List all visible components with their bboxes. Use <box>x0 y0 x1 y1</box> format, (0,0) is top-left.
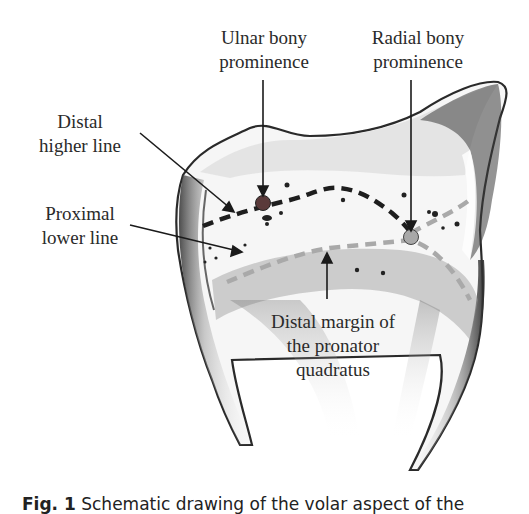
label-line: Proximal <box>30 202 130 226</box>
label-line: Radial bony <box>358 26 478 50</box>
label-distal-higher-line: Distal higher line <box>30 110 130 158</box>
label-line: prominence <box>358 50 478 74</box>
label-proximal-lower-line: Proximal lower line <box>30 202 130 250</box>
label-line: lower line <box>30 226 130 250</box>
label-ulnar-bony-prominence: Ulnar bony prominence <box>206 26 322 74</box>
label-line: the pronator <box>258 334 408 358</box>
caption-text: Schematic drawing of the volar aspect of… <box>81 494 464 514</box>
label-radial-bony-prominence: Radial bony prominence <box>358 26 478 74</box>
label-line: higher line <box>30 134 130 158</box>
bone-body <box>176 82 506 470</box>
figure-number: Fig. 1 <box>22 494 76 514</box>
label-line: prominence <box>206 50 322 74</box>
label-pronator-quadratus-margin: Distal margin of the pronator quadratus <box>258 310 408 382</box>
figure-caption: Fig. 1 Schematic drawing of the volar as… <box>22 494 464 514</box>
label-line: Ulnar bony <box>206 26 322 50</box>
label-line: Distal margin of <box>258 310 408 334</box>
label-line: Distal <box>30 110 130 134</box>
label-line: quadratus <box>258 358 408 382</box>
